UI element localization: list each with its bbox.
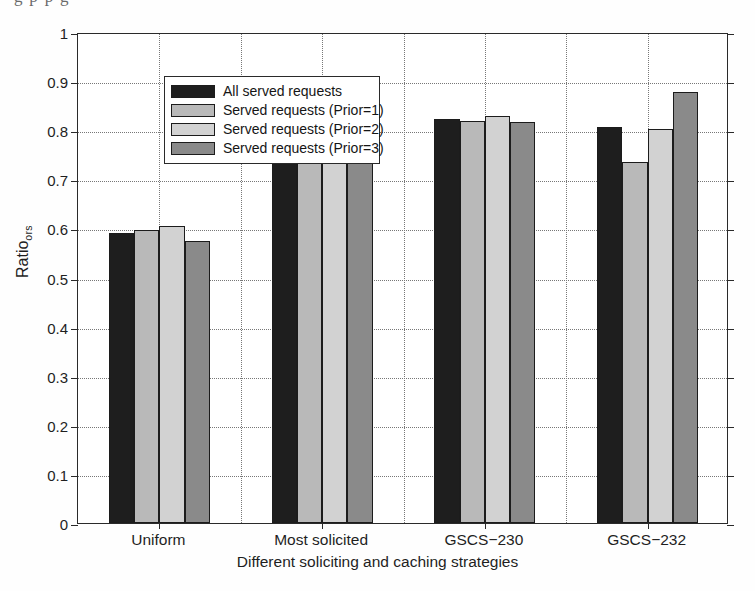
y-axis-tick-label: 0.3 xyxy=(47,368,68,385)
chart-legend: All served requestsServed requests (Prio… xyxy=(164,76,380,164)
y-axis-tick xyxy=(71,427,78,428)
legend-item: Served requests (Prior=1) xyxy=(171,101,373,119)
y-axis-tick-right xyxy=(727,525,734,526)
clipped-caption-text: g p p g xyxy=(0,0,755,7)
legend-label: Served requests (Prior=2) xyxy=(223,122,384,136)
y-axis-tick-label: 0.1 xyxy=(47,466,68,483)
x-axis-tick-label: Most solicited xyxy=(274,531,368,549)
y-axis-tick xyxy=(71,476,78,477)
bar xyxy=(460,121,485,523)
gridline-vertical xyxy=(566,34,567,523)
x-axis-tick xyxy=(485,523,486,529)
y-axis-tick xyxy=(71,280,78,281)
x-axis-tick-label: GSCS−230 xyxy=(444,531,523,549)
y-axis-tick xyxy=(71,181,78,182)
x-axis-title: Different soliciting and caching strateg… xyxy=(0,553,755,571)
bar xyxy=(597,127,622,523)
bar xyxy=(185,241,210,523)
y-axis-tick-label: 0.4 xyxy=(47,319,68,336)
y-axis-tick-label: 0.7 xyxy=(47,172,68,189)
gridline-vertical xyxy=(404,34,405,523)
y-axis-title: Ratioors xyxy=(14,225,34,278)
bar xyxy=(485,116,510,523)
bar xyxy=(272,154,297,523)
x-axis-tick xyxy=(648,523,649,529)
y-axis-tick xyxy=(71,329,78,330)
legend-swatch xyxy=(171,142,215,155)
bar xyxy=(434,119,459,523)
y-axis-tick-right xyxy=(727,329,734,330)
y-axis-tick-label: 0.8 xyxy=(47,123,68,140)
bar xyxy=(648,129,673,523)
y-axis-tick-label: 0.6 xyxy=(47,221,68,238)
bar xyxy=(622,162,647,523)
y-axis-tick xyxy=(71,83,78,84)
x-axis-tick-label: GSCS−232 xyxy=(607,531,686,549)
y-axis-tick xyxy=(71,132,78,133)
legend-item: Served requests (Prior=3) xyxy=(171,139,373,157)
bar xyxy=(673,92,698,523)
y-axis-tick xyxy=(71,525,78,526)
x-axis-tick-label: Uniform xyxy=(131,531,185,549)
y-axis-tick-label: 0.2 xyxy=(47,417,68,434)
y-axis-tick-right xyxy=(727,476,734,477)
x-axis-tick xyxy=(322,523,323,529)
y-axis-tick-right xyxy=(727,280,734,281)
plot-area: All served requestsServed requests (Prio… xyxy=(77,33,728,524)
legend-label: Served requests (Prior=3) xyxy=(223,141,384,155)
bar xyxy=(134,230,159,523)
y-axis-tick-right xyxy=(727,34,734,35)
legend-item: Served requests (Prior=2) xyxy=(171,120,373,138)
x-axis-tick xyxy=(159,523,160,529)
bar xyxy=(159,226,184,523)
y-axis-title-subscript: ors xyxy=(22,225,34,241)
y-axis-tick-right xyxy=(727,132,734,133)
y-axis-tick-right xyxy=(727,378,734,379)
legend-swatch xyxy=(171,123,215,136)
legend-swatch xyxy=(171,104,215,117)
y-axis-tick-label: 1 xyxy=(60,25,68,42)
y-axis-tick-right xyxy=(727,230,734,231)
bar xyxy=(510,122,535,523)
legend-item: All served requests xyxy=(171,82,373,100)
y-axis-tick xyxy=(71,230,78,231)
bar xyxy=(109,233,134,523)
bar xyxy=(322,151,347,523)
y-axis-tick-labels: 00.10.20.30.40.50.60.70.80.91 xyxy=(0,0,77,591)
y-axis-tick-label: 0 xyxy=(60,516,68,533)
y-axis-tick xyxy=(71,378,78,379)
y-axis-tick-right xyxy=(727,427,734,428)
clipped-caption-above: g p p g xyxy=(0,0,755,14)
y-axis-title-base: Ratio xyxy=(14,241,31,278)
y-axis-tick xyxy=(71,34,78,35)
legend-swatch xyxy=(171,85,215,98)
legend-label: All served requests xyxy=(223,84,342,98)
y-axis-tick-right xyxy=(727,181,734,182)
bar xyxy=(347,156,372,523)
legend-label: Served requests (Prior=1) xyxy=(223,103,384,117)
y-axis-tick-label: 0.5 xyxy=(47,270,68,287)
y-axis-tick-right xyxy=(727,83,734,84)
bar xyxy=(297,154,322,523)
y-axis-tick-label: 0.9 xyxy=(47,74,68,91)
